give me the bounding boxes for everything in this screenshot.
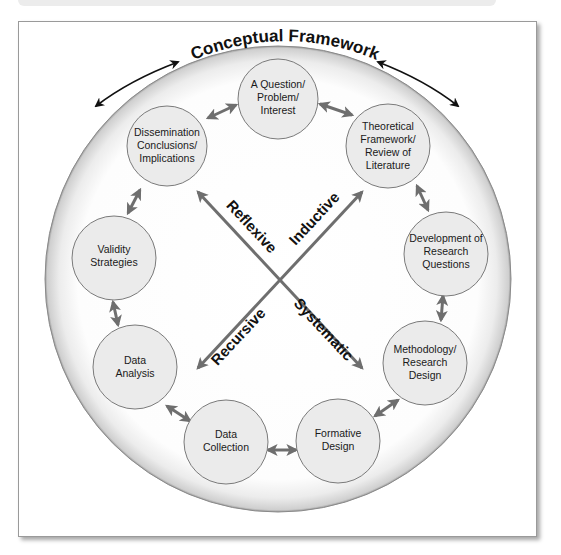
node-methodology-line-3: Design [409,369,442,381]
node-formative-line-2: Design [322,440,355,452]
node-theoretical-line-3: Review of [365,146,411,158]
node-dissemination-line-3: Implications [139,152,194,164]
node-question-line-3: Interest [260,104,295,116]
diagram-canvas: Conceptual Framework Reflexive Inductive… [0,0,561,555]
connector-development-methodology [441,296,443,320]
node-question-line-1: A Question/ [251,78,305,90]
node-collection: Data Collection [184,400,268,484]
node-analysis-line-2: Analysis [115,367,154,379]
node-collection-line-2: Collection [203,441,249,453]
node-development-line-3: Questions [422,258,469,270]
node-analysis: Data Analysis [93,325,177,409]
node-theoretical-line-4: Literature [366,159,411,171]
node-dissemination: Dissemination Conclusions/ Implications [127,106,207,186]
node-methodology-line-1: Methodology/ [393,343,456,355]
node-collection-line-1: Data [215,428,237,440]
node-methodology-line-2: Research [403,356,448,368]
node-theoretical-line-1: Theoretical [362,120,414,132]
node-theoretical: Theoretical Framework/ Review of Literat… [346,104,430,188]
node-analysis-line-1: Data [124,354,146,366]
node-theoretical-line-2: Framework/ [360,133,416,145]
node-validity-line-1: Validity [97,243,131,255]
node-validity: Validity Strategies [72,216,156,300]
node-methodology: Methodology/ Research Design [383,321,467,405]
node-dissemination-line-2: Conclusions/ [137,139,197,151]
node-formative: Formative Design [296,399,380,483]
node-dissemination-line-1: Dissemination [134,126,200,138]
node-development: Development of Research Questions [404,212,488,296]
node-development-line-2: Research [424,245,469,257]
node-development-line-1: Development of [409,232,483,244]
node-validity-line-2: Strategies [90,256,137,268]
node-formative-line-1: Formative [315,427,362,439]
node-question-line-2: Problem/ [257,91,299,103]
node-question: A Question/ Problem/ Interest [238,59,318,139]
